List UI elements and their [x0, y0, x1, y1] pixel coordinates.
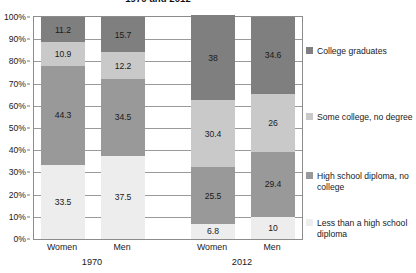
y-tick-label: 60%: [9, 101, 26, 111]
bar-column[interactable]: 1029.42634.6: [251, 17, 295, 239]
legend-item[interactable]: Less than a high school diploma: [306, 218, 413, 240]
y-tick-label: 20%: [9, 190, 26, 200]
x-category-label: Women: [190, 242, 234, 252]
legend-label: Some college, no degree: [317, 112, 413, 123]
legend-item[interactable]: College graduates: [306, 46, 387, 57]
bar-segment[interactable]: 10: [251, 217, 295, 239]
bar-segment[interactable]: 12.2: [101, 52, 145, 79]
x-axis: WomenMenWomenMen19702012: [33, 242, 303, 273]
bar-column[interactable]: 6.825.530.438: [191, 17, 235, 239]
bar-value-label: 37.5: [101, 193, 145, 202]
x-group-label: 1970: [52, 257, 132, 267]
legend-swatch-icon: [306, 47, 313, 54]
y-tick-mark: [27, 39, 30, 40]
bar-segment[interactable]: 44.3: [41, 66, 85, 164]
bar-value-label: 12.2: [101, 61, 145, 70]
chart-title: 1970 and 2012: [0, 0, 316, 4]
y-tick-mark: [27, 128, 30, 129]
bar-value-label: 11.2: [41, 25, 85, 34]
bar-segment[interactable]: 10.9: [41, 42, 85, 66]
bar-segment[interactable]: 15.7: [101, 17, 145, 52]
bar-segment[interactable]: 34.6: [251, 17, 295, 94]
bar-segment[interactable]: 33.5: [41, 165, 85, 239]
chart-legend: College graduatesSome college, no degree…: [306, 16, 416, 240]
x-category-label: Men: [250, 242, 294, 252]
bar-value-label: 34.6: [251, 51, 295, 60]
bar-segment[interactable]: 6.8: [191, 224, 235, 239]
y-tick-mark: [27, 61, 30, 62]
bar-value-label: 10: [251, 224, 295, 233]
y-axis: 0%10%20%30%40%50%60%70%80%90%100%: [0, 16, 30, 240]
bar-value-label: 29.4: [251, 180, 295, 189]
bar-segment[interactable]: 34.5: [101, 79, 145, 156]
legend-label: Less than a high school diploma: [317, 218, 413, 240]
bar-value-label: 38: [191, 53, 235, 62]
bar-segment[interactable]: 29.4: [251, 152, 295, 217]
y-tick-mark: [27, 239, 30, 240]
y-tick-mark: [27, 83, 30, 84]
x-category-label: Women: [40, 242, 84, 252]
y-tick-label: 0%: [14, 234, 26, 244]
bar-value-label: 15.7: [101, 30, 145, 39]
bar-segment[interactable]: 11.2: [41, 17, 85, 42]
legend-swatch-icon: [306, 219, 313, 226]
bar-column[interactable]: 33.544.310.911.2: [41, 17, 85, 239]
y-tick-mark: [27, 17, 30, 18]
plot-area: 33.544.310.911.237.534.512.215.76.825.53…: [33, 16, 303, 240]
bar-column[interactable]: 37.534.512.215.7: [101, 17, 145, 239]
bar-value-label: 10.9: [41, 50, 85, 59]
y-tick-label: 10%: [9, 212, 26, 222]
y-tick-mark: [27, 216, 30, 217]
y-tick-label: 50%: [9, 123, 26, 133]
bar-segment[interactable]: 37.5: [101, 156, 145, 239]
y-tick-label: 80%: [9, 56, 26, 66]
bar-value-label: 6.8: [191, 227, 235, 236]
legend-label: High school diploma, no college: [317, 171, 413, 193]
bar-value-label: 44.3: [41, 111, 85, 120]
legend-item[interactable]: High school diploma, no college: [306, 171, 413, 193]
y-tick-mark: [27, 150, 30, 151]
bar-value-label: 26: [251, 118, 295, 127]
bar-segment[interactable]: 26: [251, 94, 295, 152]
bar-segment[interactable]: 38: [191, 15, 235, 99]
y-tick-mark: [27, 172, 30, 173]
legend-swatch-icon: [306, 113, 313, 120]
legend-label: College graduates: [317, 46, 387, 57]
legend-item[interactable]: Some college, no degree: [306, 112, 413, 123]
x-group-label: 2012: [202, 257, 282, 267]
y-tick-label: 90%: [9, 34, 26, 44]
y-tick-mark: [27, 194, 30, 195]
bar-value-label: 33.5: [41, 198, 85, 207]
y-tick-label: 40%: [9, 145, 26, 155]
y-tick-label: 100%: [4, 12, 26, 22]
bar-value-label: 34.5: [101, 113, 145, 122]
bar-segment[interactable]: 25.5: [191, 167, 235, 224]
y-tick-label: 30%: [9, 167, 26, 177]
legend-swatch-icon: [306, 172, 313, 179]
y-tick-mark: [27, 105, 30, 106]
y-tick-label: 70%: [9, 79, 26, 89]
bar-value-label: 25.5: [191, 191, 235, 200]
bar-value-label: 30.4: [191, 129, 235, 138]
bar-segment[interactable]: 30.4: [191, 100, 235, 167]
x-category-label: Men: [100, 242, 144, 252]
